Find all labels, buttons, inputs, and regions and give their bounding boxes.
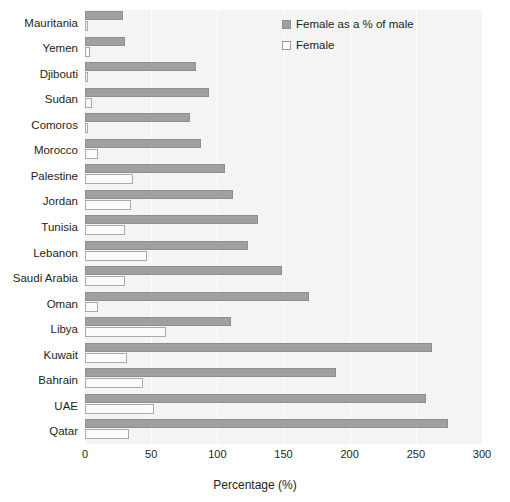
bar-row bbox=[85, 316, 482, 342]
bar-row bbox=[85, 393, 482, 419]
x-axis-title: Percentage (%) bbox=[0, 478, 510, 492]
bar-female bbox=[85, 429, 129, 439]
category-label: UAE bbox=[0, 400, 78, 412]
x-tick-label: 150 bbox=[274, 448, 292, 460]
bar-row bbox=[85, 367, 482, 393]
bar-female-percent-of-male bbox=[85, 419, 448, 428]
x-tick-label: 100 bbox=[208, 448, 226, 460]
category-label: Saudi Arabia bbox=[0, 272, 78, 284]
legend-item-female-percent-of-male: Female as a % of male bbox=[282, 18, 414, 30]
bar-female bbox=[85, 404, 154, 414]
bar-chart: MauritaniaYemenDjiboutiSudanComorosMoroc… bbox=[0, 0, 510, 502]
bar-female-percent-of-male bbox=[85, 343, 432, 352]
bar-female-percent-of-male bbox=[85, 241, 248, 250]
bar-female-percent-of-male bbox=[85, 317, 231, 326]
bar-female-percent-of-male bbox=[85, 37, 125, 46]
bar-female bbox=[85, 72, 88, 82]
category-label: Djibouti bbox=[0, 68, 78, 80]
bar-row bbox=[85, 214, 482, 240]
legend-item-female: Female bbox=[282, 39, 414, 51]
category-label: Palestine bbox=[0, 170, 78, 182]
bar-female bbox=[85, 200, 131, 210]
bar-female bbox=[85, 225, 125, 235]
bar-female-percent-of-male bbox=[85, 113, 190, 122]
legend-label: Female as a % of male bbox=[296, 18, 414, 30]
category-label: Tunisia bbox=[0, 221, 78, 233]
white-square-swatch bbox=[282, 41, 291, 50]
x-tick-label: 200 bbox=[340, 448, 358, 460]
category-axis-labels: MauritaniaYemenDjiboutiSudanComorosMoroc… bbox=[0, 10, 78, 444]
bar-row bbox=[85, 291, 482, 317]
bar-row bbox=[85, 189, 482, 215]
bar-row bbox=[85, 240, 482, 266]
bar-female-percent-of-male bbox=[85, 88, 209, 97]
bar-female bbox=[85, 123, 88, 133]
bar-female-percent-of-male bbox=[85, 292, 309, 301]
bar-row bbox=[85, 418, 482, 444]
bar-female bbox=[85, 149, 98, 159]
bar-female bbox=[85, 21, 88, 31]
x-tick-label: 250 bbox=[407, 448, 425, 460]
category-label: Sudan bbox=[0, 93, 78, 105]
bar-female bbox=[85, 174, 133, 184]
bar-female-percent-of-male bbox=[85, 11, 123, 20]
bar-female bbox=[85, 327, 166, 337]
bar-female bbox=[85, 98, 92, 108]
bar-row bbox=[85, 138, 482, 164]
bar-row bbox=[85, 163, 482, 189]
plot-area bbox=[85, 10, 482, 444]
bar-row bbox=[85, 342, 482, 368]
bar-female-percent-of-male bbox=[85, 190, 233, 199]
category-label: Oman bbox=[0, 298, 78, 310]
bar-female bbox=[85, 353, 127, 363]
gray-square-swatch bbox=[282, 20, 291, 29]
bar-female-percent-of-male bbox=[85, 266, 282, 275]
bar-female-percent-of-male bbox=[85, 164, 225, 173]
category-label: Lebanon bbox=[0, 247, 78, 259]
bar-female-percent-of-male bbox=[85, 394, 426, 403]
bar-female-percent-of-male bbox=[85, 368, 336, 377]
legend-label: Female bbox=[296, 39, 334, 51]
bar-female bbox=[85, 302, 98, 312]
category-label: Qatar bbox=[0, 425, 78, 437]
x-tick-label: 0 bbox=[82, 448, 88, 460]
category-label: Mauritania bbox=[0, 17, 78, 29]
category-label: Yemen bbox=[0, 42, 78, 54]
bar-row bbox=[85, 87, 482, 113]
x-tick-label: 300 bbox=[473, 448, 491, 460]
x-axis-tick-labels: 050100150200250300 bbox=[0, 448, 510, 464]
x-tick-label: 50 bbox=[145, 448, 157, 460]
gridline bbox=[482, 10, 483, 444]
category-label: Jordan bbox=[0, 195, 78, 207]
bar-female-percent-of-male bbox=[85, 139, 201, 148]
category-label: Comoros bbox=[0, 119, 78, 131]
bar-row bbox=[85, 61, 482, 87]
bar-row bbox=[85, 112, 482, 138]
bar-female-percent-of-male bbox=[85, 62, 196, 71]
bar-row bbox=[85, 265, 482, 291]
bar-female bbox=[85, 251, 147, 261]
chart-legend: Female as a % of male Female bbox=[282, 18, 414, 60]
category-label: Libya bbox=[0, 323, 78, 335]
category-label: Kuwait bbox=[0, 349, 78, 361]
bar-female bbox=[85, 276, 125, 286]
bar-female bbox=[85, 378, 143, 388]
bar-female-percent-of-male bbox=[85, 215, 258, 224]
category-label: Morocco bbox=[0, 144, 78, 156]
bar-female bbox=[85, 47, 90, 57]
category-label: Bahrain bbox=[0, 374, 78, 386]
